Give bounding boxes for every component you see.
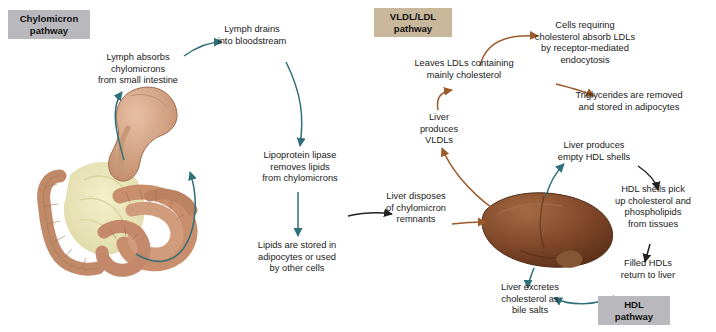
label-hdl-shells-pick-up: HDL shells pick up cholesterol and phosp… bbox=[600, 184, 706, 230]
label-liver-produces-hdl: Liver produces empty HDL shells bbox=[546, 140, 642, 163]
stomach-artwork bbox=[109, 87, 177, 181]
label-lipoprotein-lipase: Lipoprotein lipase removes lipids from c… bbox=[246, 150, 354, 185]
pathway-box-chylomicron: Chylomicron pathway bbox=[8, 10, 90, 39]
label-leaves-ldls: Leaves LDLs containing mainly cholestero… bbox=[396, 58, 532, 81]
large-intestine-artwork bbox=[44, 176, 98, 269]
label-triglycerides-removed: Triglycerides are removed and stored in … bbox=[556, 90, 702, 113]
label-cells-requiring: Cells requiring cholesterol absorb LDLs … bbox=[514, 20, 656, 66]
diagram-canvas: Chylomicron pathway VLDL/LDL pathway HDL… bbox=[0, 0, 716, 332]
label-liver-excretes: Liver excretes cholesterol as bile salts bbox=[484, 282, 576, 317]
label-liver-produces-vldls: Liver produces VLDLs bbox=[408, 112, 470, 147]
pathway-box-vldl-ldl: VLDL/LDL pathway bbox=[374, 8, 452, 37]
label-lymph-drains: Lymph drains into bloodstream bbox=[202, 24, 302, 47]
liver-artwork bbox=[482, 193, 613, 268]
pathway-box-hdl: HDL pathway bbox=[598, 296, 670, 325]
small-intestine-artwork bbox=[102, 189, 192, 270]
label-filled-hdls: Filled HDLs return to liver bbox=[604, 258, 692, 281]
mesentery-artwork bbox=[64, 162, 145, 255]
label-lipids-stored: Lipids are stored in adipocytes or used … bbox=[240, 240, 354, 275]
label-lymph-absorbs: Lymph absorbs chylomicrons from small in… bbox=[82, 52, 194, 87]
label-liver-disposes: Liver disposes of chylomicron remnants bbox=[374, 191, 458, 226]
